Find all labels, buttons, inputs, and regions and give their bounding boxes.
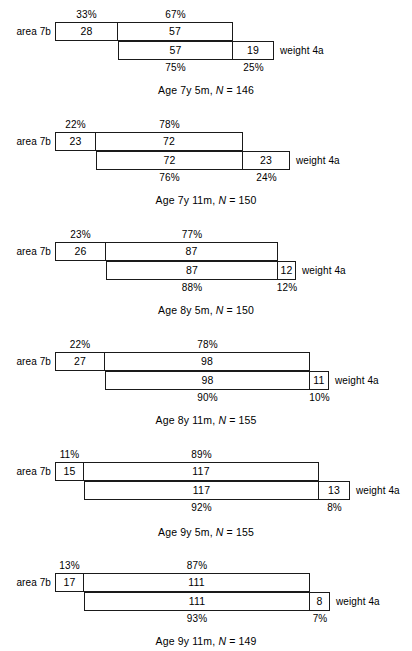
segment-value: 117: [193, 485, 210, 496]
upper-segment-left: 28: [56, 23, 118, 40]
caption-n-value: = 155: [224, 526, 254, 538]
segment-value: 26: [74, 246, 86, 257]
caption-age: Age 8y 5m,: [158, 304, 216, 316]
lower-segment-right: 11: [310, 372, 328, 389]
upper-segment-left: 26: [56, 243, 106, 260]
upper-right-percent: 87%: [54, 561, 340, 571]
segment-value: 23: [260, 155, 272, 166]
lower-bar-weight-4a: 7223: [96, 151, 290, 170]
lower-segment-left: 72: [97, 152, 243, 169]
caption-n-value: = 150: [224, 304, 254, 316]
upper-segment-right: 57: [118, 23, 232, 40]
segment-value: 15: [63, 466, 75, 477]
upper-right-percent: 89%: [54, 450, 349, 460]
lower-segment-left: 98: [106, 372, 310, 389]
segment-value: 57: [169, 45, 181, 56]
upper-bar-area-7b: 2798: [55, 352, 310, 371]
row-label-weight-4a: weight 4a: [302, 266, 346, 276]
segment-value: 72: [163, 136, 175, 147]
lower-right-percent: 7%: [280, 614, 360, 624]
lower-segment-left: 117: [85, 482, 319, 499]
panel-caption: Age 8y 5m, N = 150: [0, 304, 412, 316]
segment-value: 87: [186, 265, 198, 276]
lower-right-percent: 8%: [289, 503, 380, 513]
lower-bar-weight-4a: 9811: [105, 371, 329, 390]
lower-bar-weight-4a: 1118: [84, 592, 330, 611]
segment-value: 98: [201, 375, 213, 386]
panel-5: area 7bweight 4a151171171311%89%92%8%Age…: [0, 440, 412, 550]
upper-segment-left: 27: [56, 353, 105, 370]
caption-age: Age 7y 11m,: [155, 194, 218, 206]
row-label-weight-4a: weight 4a: [336, 597, 380, 607]
row-label-weight-4a: weight 4a: [335, 376, 379, 386]
row-label-weight-4a: weight 4a: [280, 46, 324, 56]
caption-n-symbol: N: [216, 84, 224, 96]
upper-right-percent: 78%: [66, 120, 273, 130]
caption-age: Age 8y 11m,: [155, 414, 218, 426]
segment-value: 28: [80, 26, 92, 37]
panel-caption: Age 7y 11m, N = 150: [0, 194, 412, 206]
segment-value: 13: [328, 485, 340, 496]
caption-n-symbol: N: [216, 526, 224, 538]
segment-value: 27: [74, 356, 86, 367]
upper-segment-right: 98: [105, 353, 309, 370]
segment-value: 19: [247, 45, 259, 56]
lower-right-percent: 24%: [213, 173, 320, 183]
row-label-weight-4a: weight 4a: [296, 156, 340, 166]
upper-bar-area-7b: 2372: [55, 132, 243, 151]
lower-segment-right: 12: [278, 262, 295, 279]
caption-age: Age 7y 5m,: [158, 84, 216, 96]
segment-value: 8: [316, 596, 322, 607]
upper-bar-area-7b: 17111: [55, 573, 310, 592]
upper-bar-area-7b: 2857: [55, 22, 233, 41]
upper-segment-left: 15: [56, 463, 84, 480]
upper-right-percent: 77%: [76, 230, 308, 240]
upper-segment-right: 87: [106, 243, 277, 260]
caption-age: Age 9y 11m,: [155, 635, 218, 647]
segment-value: 57: [169, 26, 181, 37]
segment-value: 23: [69, 136, 81, 147]
lower-bar-weight-4a: 11713: [84, 481, 350, 500]
lower-segment-left: 87: [107, 262, 278, 279]
segment-value: 117: [192, 466, 209, 477]
lower-segment-left: 111: [85, 593, 310, 610]
upper-right-percent: 78%: [75, 340, 340, 350]
lower-segment-left: 57: [119, 42, 233, 59]
panel-1: area 7bweight 4a2857571933%67%75%25%Age …: [0, 0, 412, 108]
row-label-area-7b: area 7b: [16, 357, 51, 367]
caption-n-value: = 150: [226, 194, 256, 206]
panel-caption: Age 9y 5m, N = 155: [0, 526, 412, 538]
caption-n-value: = 155: [226, 414, 256, 426]
row-label-weight-4a: weight 4a: [356, 486, 400, 496]
segment-value: 111: [189, 596, 206, 607]
upper-segment-left: 23: [56, 133, 96, 150]
row-label-area-7b: area 7b: [16, 137, 51, 147]
lower-segment-right: 13: [319, 482, 349, 499]
segment-value: 17: [63, 577, 75, 588]
row-label-area-7b: area 7b: [16, 467, 51, 477]
lower-right-percent: 10%: [280, 393, 359, 403]
panel-2: area 7bweight 4a2372722322%78%76%24%Age …: [0, 110, 412, 218]
row-label-area-7b: area 7b: [16, 247, 51, 257]
lower-right-percent: 12%: [248, 283, 326, 293]
segment-value: 12: [280, 265, 292, 276]
caption-n-value: = 146: [224, 84, 254, 96]
panel-caption: Age 8y 11m, N = 155: [0, 414, 412, 426]
upper-segment-left: 17: [56, 574, 84, 591]
caption-n-symbol: N: [216, 304, 224, 316]
segment-value: 11: [313, 375, 324, 386]
row-label-area-7b: area 7b: [16, 578, 51, 588]
caption-n-symbol: N: [218, 194, 226, 206]
caption-age: Age 9y 5m,: [158, 526, 216, 538]
lower-bar-weight-4a: 8712: [106, 261, 296, 280]
lower-segment-right: 23: [243, 152, 289, 169]
row-label-area-7b: area 7b: [16, 27, 51, 37]
caption-n-symbol: N: [218, 414, 226, 426]
figure-root: area 7bweight 4a2857571933%67%75%25%Age …: [0, 0, 412, 651]
panel-6: area 7bweight 4a17111111813%87%93%7%Age …: [0, 551, 412, 651]
panel-4: area 7bweight 4a2798981122%78%90%10%Age …: [0, 330, 412, 438]
lower-right-percent: 25%: [203, 63, 304, 73]
panel-caption: Age 9y 11m, N = 149: [0, 635, 412, 647]
panel-caption: Age 7y 5m, N = 146: [0, 84, 412, 96]
upper-segment-right: 117: [84, 463, 318, 480]
